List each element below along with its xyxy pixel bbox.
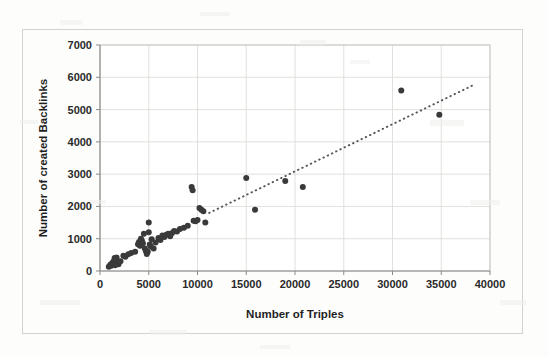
x-axis-ticks [100, 271, 490, 275]
x-axis-tick-label: 35000 [426, 278, 457, 290]
data-point [252, 207, 258, 213]
y-axis-tick-label: 1000 [68, 233, 92, 245]
data-point [185, 223, 191, 229]
y-axis-tick-label: 4000 [68, 136, 92, 148]
y-axis-tick-label: 5000 [68, 104, 92, 116]
x-axis-tick-label: 0 [97, 278, 103, 290]
data-point [398, 88, 404, 94]
x-axis-tick-label: 5000 [137, 278, 161, 290]
y-axis-tick-label: 0 [86, 265, 92, 277]
y-axis-tick-labels: 01000200030004000500060007000 [68, 39, 92, 277]
data-point [282, 178, 288, 184]
y-axis-tick-label: 2000 [68, 200, 92, 212]
data-point [195, 217, 201, 223]
x-axis-tick-label: 20000 [280, 278, 311, 290]
data-point [300, 184, 306, 190]
y-axis-tick-label: 3000 [68, 168, 92, 180]
data-point [117, 258, 123, 264]
x-axis-tick-label: 40000 [475, 278, 506, 290]
x-axis-tick-label: 15000 [231, 278, 262, 290]
data-point [132, 249, 138, 255]
x-axis-title: Number of Triples [246, 308, 344, 320]
data-point [145, 249, 151, 255]
data-point [202, 220, 208, 226]
y-axis-tick-label: 6000 [68, 71, 92, 83]
y-axis-tick-label: 7000 [68, 39, 92, 51]
x-axis-tick-label: 30000 [377, 278, 408, 290]
x-axis-tick-label: 10000 [182, 278, 213, 290]
data-point [151, 245, 157, 251]
x-axis-tick-labels: 0500010000150002000025000300003500040000 [97, 278, 505, 290]
data-point [436, 112, 442, 118]
data-point [190, 187, 196, 193]
data-point [200, 208, 206, 214]
data-point [140, 240, 146, 246]
data-point [243, 175, 249, 181]
data-point [146, 229, 152, 235]
scatter-plot: 01000200030004000500060007000 0500010000… [0, 0, 548, 357]
chart-figure: 01000200030004000500060007000 0500010000… [0, 0, 548, 357]
y-axis-title: Number of created Backlinks [37, 79, 49, 238]
data-point [146, 220, 152, 226]
y-axis-ticks [96, 45, 100, 271]
x-axis-tick-label: 25000 [328, 278, 359, 290]
